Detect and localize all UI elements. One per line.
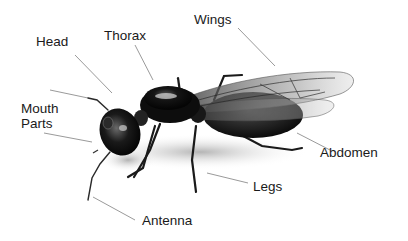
mouth-upper-leader-line — [50, 90, 88, 98]
antenna-leader-line — [93, 197, 135, 220]
label-antenna: Antenna — [142, 213, 192, 228]
label-legs: Legs — [253, 179, 282, 194]
label-mouth-parts-line2: Parts — [21, 116, 53, 131]
insect-anatomy-diagram: Head Thorax Wings Mouth Parts Abdomen Le… — [0, 0, 408, 241]
mouth-parts-leader-line — [44, 133, 92, 142]
label-mouth-parts-line1: Mouth — [21, 101, 59, 116]
label-wings: Wings — [194, 12, 232, 27]
legs-leader-line — [207, 173, 248, 183]
thorax-shape — [140, 86, 200, 123]
label-head: Head — [36, 34, 68, 49]
wings-leader-line — [238, 28, 275, 66]
label-abdomen: Abdomen — [320, 145, 378, 160]
thorax-leader-line — [135, 45, 153, 80]
head-leader-line — [75, 55, 112, 93]
label-thorax: Thorax — [104, 28, 146, 43]
